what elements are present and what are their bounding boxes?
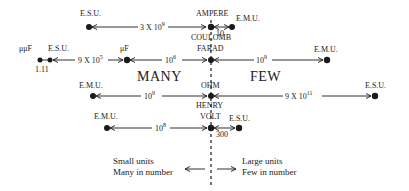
- esu-node-farad: [48, 58, 53, 63]
- emu-label-volt: E.M.U.: [94, 112, 118, 121]
- farad-esu-factor: 9 X 105: [78, 54, 103, 65]
- legend-small-units: Small units: [113, 156, 154, 166]
- farad-label: FARAD: [197, 44, 224, 53]
- legend-few-in-number: Few in number: [242, 167, 297, 177]
- row-volt: VOLT E.M.U. 108 300 E.S.U.: [94, 112, 250, 139]
- ampere-label: AMPERE: [196, 9, 229, 18]
- esu-label-volt: E.S.U.: [229, 114, 250, 123]
- esu-label-ohm: E.S.U.: [365, 81, 386, 90]
- unit-conversion-diagram: E.S.U. 3 X 109 AMPERE 10 E.M.U. COULOMB …: [0, 0, 409, 191]
- farad-emu-factor: 109: [256, 54, 267, 65]
- ohm-esu-factor: 9 X 1011: [285, 90, 313, 101]
- ohm-label: OHM: [201, 81, 220, 90]
- ohm-emu-factor: 109: [144, 90, 155, 101]
- esu-node-ohm: [372, 93, 378, 99]
- volt-label: VOLT: [200, 112, 221, 121]
- legend: Small units Many in number Large units F…: [113, 156, 297, 177]
- henry-label: HENRY: [196, 101, 223, 110]
- many-region-label: MANY: [137, 69, 182, 84]
- volt-emu-factor: 108: [155, 122, 166, 133]
- micromicrofarad-node: [38, 58, 43, 63]
- volt-esu-factor: 300: [216, 130, 228, 139]
- esu-label-farad: E.S.U.: [48, 44, 69, 53]
- few-region-label: FEW: [250, 69, 281, 84]
- emu-label: E.M.U.: [236, 14, 260, 23]
- emu-node-farad: [324, 57, 330, 63]
- esu-node-volt: [236, 125, 242, 131]
- legend-large-units: Large units: [242, 156, 283, 166]
- row-ohm: OHM E.M.U. 109 9 X 1011 E.S.U. HENRY: [79, 81, 386, 110]
- factor-1-11: 1.11: [35, 65, 49, 74]
- ampere-esu-factor: 3 X 109: [140, 21, 165, 32]
- emu-node: [229, 24, 235, 30]
- microfarad-label: μF: [120, 44, 129, 53]
- emu-label-ohm: E.M.U.: [79, 81, 103, 90]
- micromicrofarad-label: μμF: [19, 44, 33, 53]
- legend-many-in-number: Many in number: [113, 167, 173, 177]
- farad-microfarad-factor: 106: [165, 54, 176, 65]
- emu-label-farad: E.M.U.: [314, 45, 338, 54]
- row-ampere: E.S.U. 3 X 109 AMPERE 10 E.M.U. COULOMB: [80, 9, 260, 42]
- coulomb-label: COULOMB: [191, 33, 231, 42]
- esu-label: E.S.U.: [80, 9, 101, 18]
